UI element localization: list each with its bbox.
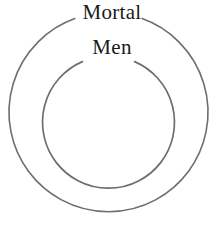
inner-set-label: Men — [0, 37, 224, 58]
outer-set-label: Mortal — [0, 2, 224, 23]
inner-circle-arc — [43, 62, 175, 189]
euler-diagram: Mortal Men — [0, 0, 224, 237]
